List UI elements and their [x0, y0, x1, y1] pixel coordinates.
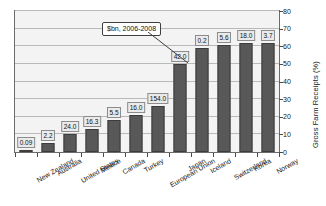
bar-norway[interactable]	[262, 43, 275, 152]
y-tick-mark	[279, 29, 283, 30]
bar-united-states[interactable]	[64, 134, 77, 152]
bar-japan[interactable]	[174, 64, 187, 152]
bar-group: 24.0	[59, 11, 81, 152]
x-axis-labels: New ZealandAustraliaUnited StatesMexicoC…	[0, 155, 326, 206]
y-axis-title: Gross Farm Receipts (%)	[311, 18, 325, 148]
bar-iceland[interactable]	[196, 48, 209, 152]
bar-group: 42.0	[169, 11, 191, 152]
y-tick-label: 60	[283, 43, 301, 50]
y-tick-label: 10	[283, 131, 301, 138]
bar-new-zealand[interactable]	[20, 150, 33, 152]
bar-switzerland[interactable]	[218, 45, 231, 153]
y-axis-title-text: Gross Farm Receipts (%)	[311, 61, 320, 148]
bar-value-label: 18.0	[237, 30, 255, 41]
bar-value-label: 2.2	[41, 130, 55, 141]
bar-value-label: 42.0	[171, 51, 189, 62]
bar-group: 0.2	[191, 11, 213, 152]
y-tick-mark	[279, 64, 283, 65]
bar-group: 18.0	[235, 11, 257, 152]
x-axis-label: Norway	[275, 157, 300, 176]
bar-group: 16.3	[81, 11, 103, 152]
bar-group: 5.6	[213, 11, 235, 152]
x-axis-label: Korea	[253, 157, 273, 173]
y-tick-mark	[279, 46, 283, 47]
bar-value-label: 0.2	[195, 35, 209, 46]
bar-group: 0.09	[15, 11, 37, 152]
y-tick-label: 70	[283, 25, 301, 32]
y-tick-label: 40	[283, 78, 301, 85]
annotation-callout: $bn, 2006-2008	[102, 22, 161, 36]
bar-group: 2.2	[37, 11, 59, 152]
x-axis-label: Turkey	[143, 157, 165, 174]
bar-turkey[interactable]	[130, 115, 143, 152]
bar-value-label: 24.0	[61, 121, 79, 132]
y-tick-label: 80	[283, 8, 301, 15]
y-tick-mark	[279, 11, 283, 12]
y-tick-label: 50	[283, 60, 301, 67]
bar-value-label: 3.7	[261, 30, 275, 41]
bar-chart-figure: 0.092.224.016.35.516.0154.042.00.25.618.…	[0, 0, 326, 206]
bar-canada[interactable]	[108, 120, 121, 152]
y-tick-label: 20	[283, 113, 301, 120]
y-tick-mark	[279, 117, 283, 118]
bar-korea[interactable]	[240, 43, 253, 152]
y-tick-label: 30	[283, 96, 301, 103]
bar-value-label: 0.09	[17, 137, 35, 148]
bar-mexico[interactable]	[86, 129, 99, 152]
y-tick-mark	[279, 134, 283, 135]
bar-european-union[interactable]	[152, 106, 165, 152]
annotation-callout-text: $bn, 2006-2008	[107, 25, 156, 32]
y-tick-mark	[279, 152, 283, 153]
bar-australia[interactable]	[42, 143, 55, 152]
y-tick-mark	[279, 99, 283, 100]
bar-value-label: 16.0	[127, 102, 145, 113]
y-tick-mark	[279, 82, 283, 83]
bar-group: 3.7	[257, 11, 279, 152]
bar-value-label: 5.5	[107, 107, 121, 118]
bar-value-label: 16.3	[83, 116, 101, 127]
bar-value-label: 154.0	[147, 93, 168, 104]
bar-value-label: 5.6	[217, 32, 231, 43]
